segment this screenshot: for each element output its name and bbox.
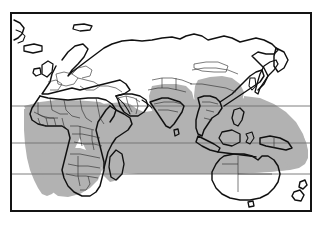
coastline-europe-west (42, 66, 130, 96)
border-europe-5 (100, 86, 122, 92)
coastline-new-zealand-south (292, 190, 304, 201)
coastline-eurasia-north (62, 34, 278, 90)
coastline-ireland (33, 68, 41, 76)
border-china-1 (192, 68, 238, 74)
border-central-asia-2 (152, 78, 192, 84)
border-mongolia (194, 62, 228, 72)
border-europe-1 (56, 72, 78, 86)
coastline-svalbard (73, 24, 92, 31)
figure-caption (10, 214, 312, 227)
coastline-new-zealand-north (299, 180, 307, 189)
coastline-iceland (24, 44, 42, 53)
coastline-tasmania (248, 201, 254, 207)
border-europe-4 (48, 80, 62, 90)
coastline-korea (249, 78, 256, 90)
map-canvas (12, 14, 310, 210)
map-frame (10, 12, 312, 212)
distribution-map-figure (0, 0, 322, 228)
